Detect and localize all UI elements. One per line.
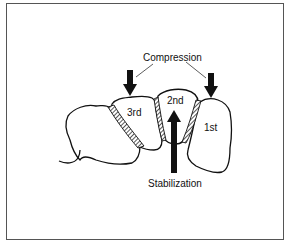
diagram-canvas: Compression Stabilization 3rd 2nd 1st <box>0 0 290 244</box>
segment-label-first: 1st <box>204 122 218 133</box>
compression-label: Compression <box>143 52 202 63</box>
segment-label-second: 2nd <box>167 95 184 106</box>
segment-label-third: 3rd <box>127 107 141 118</box>
stabilization-label: Stabilization <box>148 178 202 189</box>
